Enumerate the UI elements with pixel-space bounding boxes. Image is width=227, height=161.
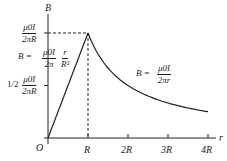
outside-formula-frac: μ0I 2πr: [157, 64, 171, 85]
tick-label-4r: 4R: [201, 145, 212, 155]
inside-formula-lhs: B =: [18, 52, 32, 61]
inside-formula-frac2: r R²: [61, 48, 69, 69]
tick-label-3r: 3R: [161, 145, 172, 155]
x-axis-label: r: [219, 133, 223, 143]
outside-formula-lhs: B =: [136, 69, 150, 78]
half-coef: 1/2: [7, 80, 19, 89]
origin-label: O: [36, 143, 43, 153]
inside-formula-frac1: μ0I 2π: [42, 48, 56, 69]
y-axis-label: B: [45, 3, 51, 13]
peak-value-label: μ0I 2πR: [22, 23, 37, 44]
tick-label-r: R: [84, 145, 90, 155]
half-value-label: μ0I 2πR: [22, 75, 37, 96]
tick-label-2r: 2R: [121, 145, 132, 155]
